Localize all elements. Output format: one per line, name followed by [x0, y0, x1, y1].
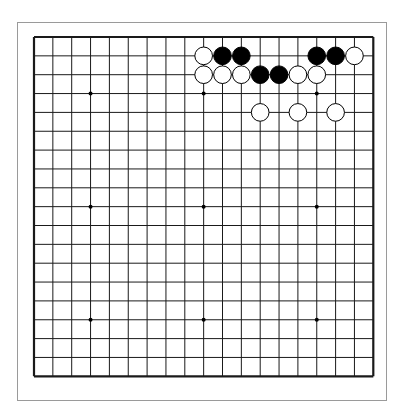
- black-stone: [327, 47, 345, 65]
- black-stone: [233, 47, 251, 65]
- star-point: [315, 205, 319, 209]
- star-point: [89, 318, 93, 322]
- white-stone: [289, 104, 307, 122]
- white-stone: [195, 66, 213, 84]
- star-point: [202, 205, 206, 209]
- white-stone: [289, 66, 307, 84]
- black-stone: [270, 66, 288, 84]
- white-stone: [308, 66, 326, 84]
- black-stone: [308, 47, 326, 65]
- star-point: [315, 92, 319, 96]
- star-point: [89, 205, 93, 209]
- white-stone: [346, 47, 364, 65]
- white-stone: [233, 66, 251, 84]
- black-stone: [251, 66, 269, 84]
- star-point: [315, 318, 319, 322]
- go-board[interactable]: [0, 0, 409, 418]
- star-point: [202, 92, 206, 96]
- white-stone: [327, 104, 345, 122]
- white-stone: [195, 47, 213, 65]
- white-stone: [214, 66, 232, 84]
- star-point: [202, 318, 206, 322]
- white-stone: [251, 104, 269, 122]
- star-point: [89, 92, 93, 96]
- black-stone: [214, 47, 232, 65]
